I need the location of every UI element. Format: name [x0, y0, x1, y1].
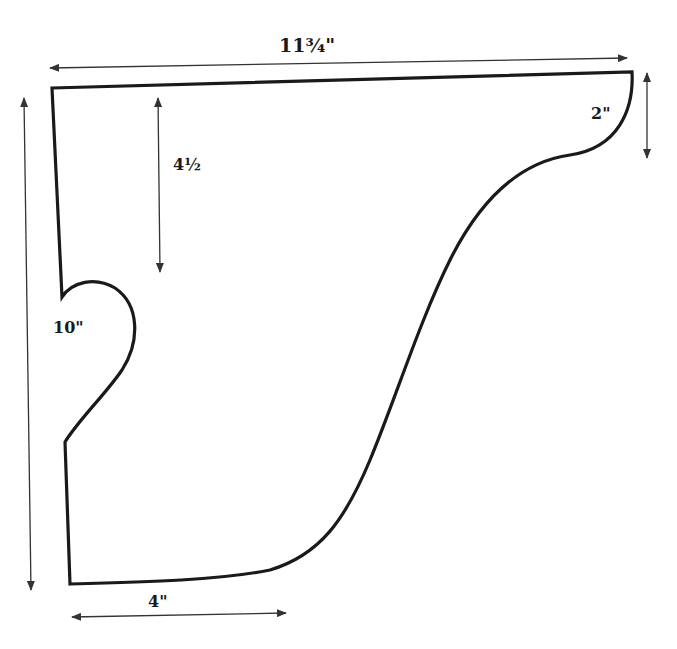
- bracket-outline: [52, 72, 632, 584]
- bottom-width-dimension-line: [72, 613, 286, 617]
- notch-depth-label: 4½: [173, 157, 201, 173]
- bracket-template-diagram: 11¾" 4½ 2" 10" 4": [0, 0, 677, 649]
- notch-depth-dimension-line: [158, 98, 160, 272]
- height-dimension-line: [24, 98, 31, 590]
- overall-height-label: 10": [53, 320, 84, 336]
- overall-width-label: 11¾": [279, 36, 335, 55]
- bottom-width-label: 4": [148, 594, 167, 610]
- diagram-drawing: [0, 0, 677, 649]
- top-right-drop-label: 2": [591, 106, 610, 122]
- width-dimension-line: [50, 58, 627, 68]
